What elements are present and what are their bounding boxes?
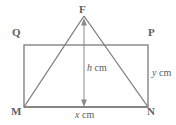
geometry-figure: F Q P M N h cm y cm x cm [0, 0, 176, 125]
vertex-label-p: P [148, 27, 155, 38]
base-unit: cm [82, 109, 94, 120]
rectangle-qpnm [24, 45, 148, 107]
arrowhead-down-icon [81, 100, 87, 108]
side-unit: cm [159, 67, 171, 78]
vertex-label-m: M [11, 106, 21, 117]
height-measure-label: h cm [86, 63, 108, 73]
triangle-fmn-left-edge [24, 16, 84, 107]
vertex-label-f: F [79, 4, 86, 15]
base-measure-label: x cm [74, 110, 95, 120]
side-measure-label: y cm [151, 68, 172, 78]
vertex-label-q: Q [12, 27, 21, 38]
vertex-label-n: N [147, 106, 155, 117]
height-unit: cm [95, 62, 107, 73]
